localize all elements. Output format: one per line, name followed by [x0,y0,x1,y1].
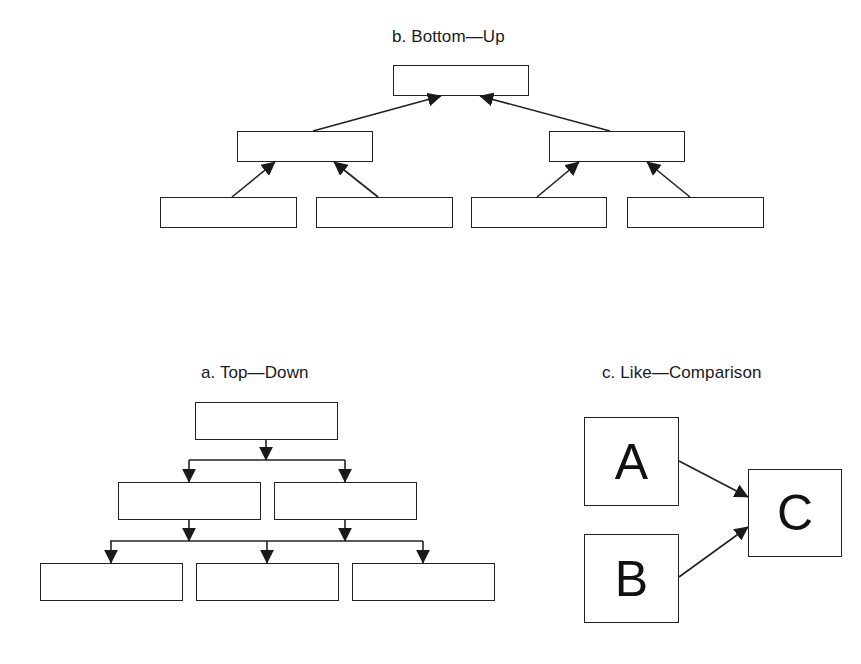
arrow-icon [480,96,610,131]
comparison-arrows [679,461,748,577]
arrow-icon [537,162,579,197]
arrow-icon [647,162,690,197]
arrow-icon [334,162,378,197]
connector-layer [0,0,861,664]
arrow-icon [232,162,275,197]
top-down-arrows [110,440,423,563]
arrow-icon [679,527,748,577]
arrow-icon [313,96,441,131]
arrow-icon [679,461,748,497]
bottom-up-arrows [232,96,690,197]
